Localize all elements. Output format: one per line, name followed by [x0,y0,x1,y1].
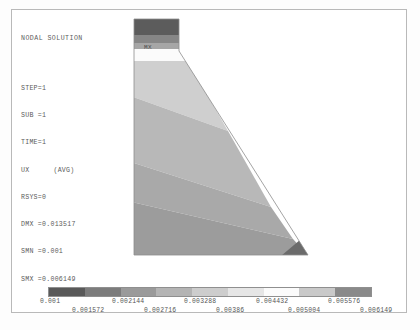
legend-tick-upper-4: 0.005576 [328,298,360,305]
legend-band-2[interactable] [121,288,157,296]
solution-dmx: DMX =0.013517 [21,220,83,229]
legend-tick-upper-3: 0.004432 [256,298,288,305]
max-marker-label: MX [144,44,152,51]
solution-rsys: RSYS=0 [21,193,83,202]
legend-tick-lower-2: 0.00386 [216,307,244,314]
contour-legend-ticks: 0.0010.0021440.0032880.0044320.0055760.0… [12,298,406,320]
legend-tick-lower-4: 0.006149 [360,307,392,314]
legend-band-1[interactable] [85,288,121,296]
legend-band-4[interactable] [192,288,228,296]
legend-tick-lower-3: 0.005004 [288,307,320,314]
solution-result-row: UX(AVG) [21,166,83,175]
legend-tick-upper-2: 0.003288 [184,298,216,305]
solution-step: STEP=1 [21,84,83,93]
legend-band-8[interactable] [335,288,371,296]
legend-tick-upper-0: 0.001 [40,298,60,305]
legend-band-0[interactable] [49,288,85,296]
solution-smn: SMN =0.001 [21,247,83,256]
solution-time: TIME=1 [21,138,83,147]
solution-title: NODAL SOLUTION [21,34,83,43]
plot-window: MX MN X NODAL SOLUTION STEP=1 SUB =1 TIM… [11,9,407,313]
legend-band-5[interactable] [228,288,264,296]
result-qualifier-label: (AVG) [53,167,74,174]
result-component-label: UX [21,167,29,174]
legend-tick-lower-0: 0.001572 [72,307,104,314]
contour-band-group [128,15,313,261]
legend-tick-upper-1: 0.002144 [112,298,144,305]
legend-band-6[interactable] [264,288,300,296]
legend-band-3[interactable] [156,288,192,296]
legend-tick-lower-1: 0.002716 [144,307,176,314]
solution-info-block: NODAL SOLUTION STEP=1 SUB =1 TIME=1 UX(A… [21,16,83,302]
legend-band-7[interactable] [299,288,335,296]
solution-smx: SMX =0.006149 [21,275,83,284]
solution-sub: SUB =1 [21,111,83,120]
contour-legend-bar[interactable] [48,287,372,297]
